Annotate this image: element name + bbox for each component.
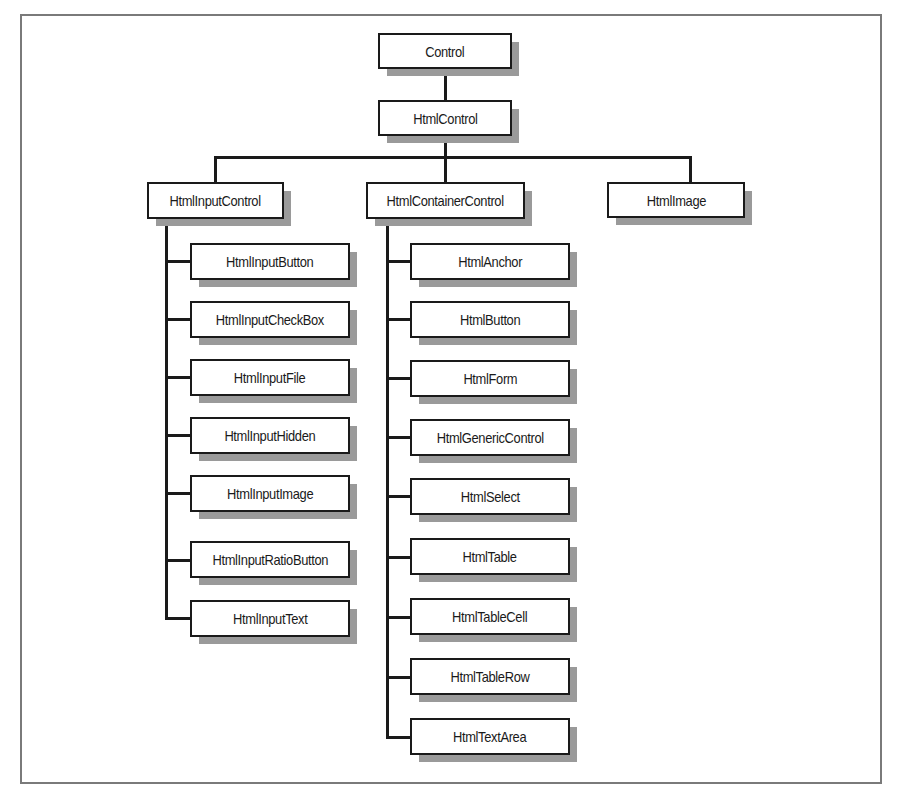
node-htmlgenericcontrol: HtmlGenericControl <box>410 419 570 456</box>
node-label: HtmlGenericControl <box>436 429 543 446</box>
connector-input-branch <box>165 434 191 437</box>
node-label: HtmlSelect <box>461 488 520 505</box>
connector-input-branch <box>165 559 191 562</box>
node-htmltablecell: HtmlTableCell <box>410 598 570 635</box>
node-label: HtmlTextArea <box>453 728 526 745</box>
node-control: Control <box>378 33 512 69</box>
node-label: HtmlTableCell <box>452 608 527 625</box>
node-label: HtmlInputFile <box>234 369 306 386</box>
connector-input-branch <box>165 492 191 495</box>
connector-control-htmlcontrol <box>444 68 447 101</box>
node-htmlimage: HtmlImage <box>607 182 745 218</box>
node-label: HtmlInputHidden <box>225 427 316 444</box>
connector-input-branch <box>165 376 191 379</box>
connector-container-branch <box>386 377 412 380</box>
node-label: HtmlAnchor <box>458 253 522 270</box>
connector-input-branch <box>165 617 191 620</box>
connector-htmlcontrol-down <box>444 136 447 158</box>
connector-container-trunk <box>386 218 389 738</box>
node-htmlinputbutton: HtmlInputButton <box>190 243 350 280</box>
node-label: HtmlInputText <box>233 610 307 627</box>
node-label: Control <box>425 43 464 60</box>
connector-container-branch <box>386 318 412 321</box>
node-htmlinputcontrol: HtmlInputControl <box>147 182 284 219</box>
connector-level2-horizontal <box>214 156 692 159</box>
connector-to-containercontrol <box>444 156 447 183</box>
connector-container-branch <box>386 676 412 679</box>
node-label: HtmlContainerControl <box>387 192 504 209</box>
node-label: HtmlInputCheckBox <box>216 311 324 328</box>
node-label: HtmlInputButton <box>226 253 313 270</box>
node-htmlcontainercontrol: HtmlContainerControl <box>366 182 525 219</box>
node-htmlcontrol: HtmlControl <box>378 100 512 136</box>
connector-container-branch <box>386 436 412 439</box>
node-htmlinputhidden: HtmlInputHidden <box>190 417 350 454</box>
node-htmltextarea: HtmlTextArea <box>410 718 570 755</box>
node-htmlinputtext: HtmlInputText <box>190 600 350 637</box>
node-label: HtmlInputRatioButton <box>212 551 328 568</box>
node-label: HtmlTable <box>463 548 517 565</box>
connector-container-branch <box>386 556 412 559</box>
node-htmlform: HtmlForm <box>410 360 570 397</box>
node-label: HtmlInputImage <box>227 485 313 502</box>
node-label: HtmlButton <box>460 311 520 328</box>
node-label: HtmlForm <box>463 370 517 387</box>
connector-to-htmlimage <box>689 156 692 183</box>
node-label: HtmlControl <box>413 110 477 127</box>
node-htmltablerow: HtmlTableRow <box>410 658 570 695</box>
node-htmlinputfile: HtmlInputFile <box>190 359 350 396</box>
node-htmlbutton: HtmlButton <box>410 301 570 338</box>
node-label: HtmlInputControl <box>170 192 261 209</box>
connector-container-branch <box>386 736 412 739</box>
node-htmlinputcheckbox: HtmlInputCheckBox <box>190 301 350 338</box>
node-htmlanchor: HtmlAnchor <box>410 243 570 280</box>
node-htmlselect: HtmlSelect <box>410 478 570 515</box>
connector-container-branch <box>386 260 412 263</box>
connector-container-branch <box>386 616 412 619</box>
node-htmlinputimage: HtmlInputImage <box>190 475 350 512</box>
node-label: HtmlImage <box>646 192 705 209</box>
connector-container-branch <box>386 495 412 498</box>
connector-to-inputcontrol <box>214 156 217 183</box>
node-label: HtmlTableRow <box>450 668 529 685</box>
node-htmltable: HtmlTable <box>410 538 570 575</box>
connector-input-branch <box>165 260 191 263</box>
node-htmlinputratiobutton: HtmlInputRatioButton <box>190 541 350 578</box>
connector-input-branch <box>165 318 191 321</box>
